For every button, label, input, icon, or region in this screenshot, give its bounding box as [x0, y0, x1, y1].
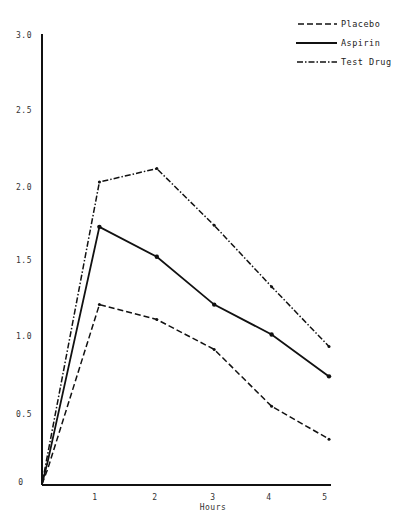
- y-tick-2-5: 2.5: [16, 106, 32, 115]
- legend-label-placebo: Placebo: [341, 19, 380, 29]
- data-point: [269, 332, 273, 336]
- data-point: [97, 225, 101, 229]
- x-tick-1: 1: [92, 493, 97, 502]
- data-point: [155, 255, 159, 259]
- y-tick-1-0: 1.0: [16, 332, 32, 341]
- data-point: [328, 345, 331, 348]
- y-tick-1-5: 1.5: [16, 256, 32, 265]
- data-point: [270, 285, 273, 288]
- y-tick-labels: 3.0 2.5 2.0 1.5 1.0 0.5 0: [16, 31, 32, 487]
- x-tick-5: 5: [322, 493, 327, 502]
- legend: Placebo Aspirin Test Drug: [296, 19, 392, 67]
- data-point: [270, 405, 273, 408]
- x-tick-labels: 1 2 3 4 5: [92, 493, 327, 502]
- series-layer: [42, 167, 331, 484]
- data-point: [98, 303, 101, 306]
- data-point: [328, 438, 331, 441]
- line-chart: 3.0 2.5 2.0 1.5 1.0 0.5 0 1 2 3 4 5 Hour…: [0, 0, 400, 530]
- series-aspirin: [42, 227, 329, 484]
- data-point: [327, 374, 331, 378]
- y-tick-3-0: 3.0: [16, 31, 32, 40]
- data-point: [213, 224, 216, 227]
- data-point: [155, 167, 158, 170]
- data-point: [155, 318, 158, 321]
- x-axis-title: Hours: [200, 503, 227, 512]
- legend-label-test-drug: Test Drug: [341, 57, 392, 67]
- data-point: [213, 348, 216, 351]
- y-tick-0-5: 0.5: [16, 410, 32, 419]
- x-tick-4: 4: [266, 493, 271, 502]
- legend-label-aspirin: Aspirin: [341, 38, 380, 48]
- x-tick-2: 2: [152, 493, 157, 502]
- series-test-drug: [42, 169, 329, 484]
- series-placebo: [42, 305, 329, 484]
- y-tick-2-0: 2.0: [16, 183, 32, 192]
- x-tick-3: 3: [210, 493, 215, 502]
- y-tick-0: 0: [18, 478, 23, 487]
- data-point: [212, 302, 216, 306]
- data-point: [98, 181, 101, 184]
